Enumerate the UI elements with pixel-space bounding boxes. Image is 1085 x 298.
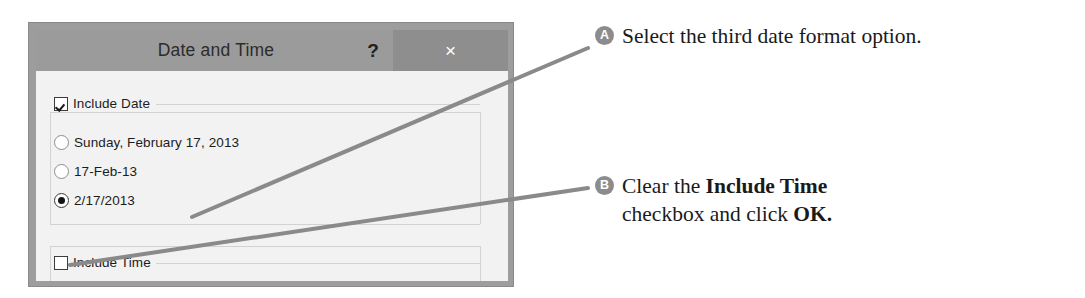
include-date-group-bottom-border <box>50 224 480 225</box>
include-time-group-right-border <box>480 246 481 281</box>
callout-plain: checkbox and click <box>622 202 793 226</box>
radio-unselected-icon[interactable] <box>54 164 69 179</box>
date-format-option-0-label: Sunday, February 17, 2013 <box>74 135 239 150</box>
date-format-option-0[interactable]: Sunday, February 17, 2013 <box>54 135 239 150</box>
date-format-option-2[interactable]: 2/17/2013 <box>54 193 135 208</box>
radio-unselected-icon[interactable] <box>54 135 69 150</box>
callout-a: A Select the third date format option. <box>595 22 922 50</box>
include-date-checkbox-icon[interactable] <box>54 97 68 111</box>
callout-a-text: Select the third date format option. <box>622 22 922 50</box>
date-format-option-1-label: 17-Feb-13 <box>74 164 137 179</box>
callout-b: B Clear the Include Time checkbox and cl… <box>595 172 832 228</box>
include-date-group-left-border <box>50 112 51 224</box>
include-time-group-top-border <box>50 246 480 247</box>
include-time-checkbox-row[interactable]: Include Time <box>54 255 151 270</box>
callout-plain: Select the third date format option. <box>622 24 922 48</box>
help-icon[interactable]: ? <box>354 30 392 71</box>
callout-plain: Clear the <box>622 174 706 198</box>
include-date-checkbox-row[interactable]: Include Date <box>54 96 150 111</box>
date-format-option-1[interactable]: 17-Feb-13 <box>54 164 137 179</box>
include-time-caption-rule <box>156 263 480 264</box>
callout-emphasis: OK. <box>793 202 832 226</box>
dialog-titlebar: Date and Time ? × <box>36 30 508 71</box>
include-date-caption-rule <box>156 104 480 105</box>
include-date-group-right-border <box>480 112 481 224</box>
date-and-time-dialog: Date and Time ? × Include Date <box>28 22 514 287</box>
date-format-option-2-label: 2/17/2013 <box>74 193 135 208</box>
close-icon[interactable]: × <box>393 30 508 71</box>
callout-b-text: Clear the Include Time checkbox and clic… <box>622 172 832 228</box>
figure-canvas: Date and Time ? × Include Date <box>0 0 1085 298</box>
dialog-client-area: Include Date Sunday, February 17, 2013 1… <box>36 71 508 281</box>
dialog-title: Date and Time <box>36 30 396 71</box>
include-time-label: Include Time <box>73 255 151 270</box>
callout-badge-b: B <box>595 176 614 195</box>
callout-emphasis: Include Time <box>706 174 828 198</box>
radio-selected-icon[interactable] <box>54 193 69 208</box>
include-time-group-left-border <box>50 246 51 281</box>
include-time-checkbox-icon[interactable] <box>54 256 68 270</box>
callout-badge-a: A <box>595 26 614 45</box>
include-date-group-top-border <box>50 112 480 113</box>
include-date-label: Include Date <box>73 96 150 111</box>
